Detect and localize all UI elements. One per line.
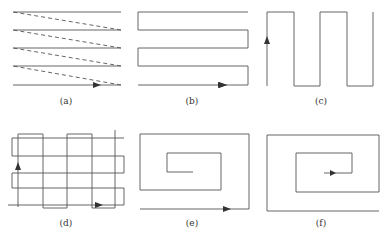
panel-b-label: (b) [172,96,212,106]
panel-f-label: (f) [301,218,341,228]
panel-b-serpentine-horizontal-diagram [138,12,248,88]
panel-d-label: (d) [46,218,86,228]
panel-a-zigzag-diagram [13,12,121,85]
panel-d-crosshatch-diagram [8,130,124,208]
panel-c-serpentine-vertical-diagram [264,12,373,86]
panel-a-label: (a) [46,96,86,106]
panel-e-label: (e) [172,218,212,228]
panel-f-spiral-outward-diagram [267,135,379,211]
panel-e-spiral-inward-diagram [140,134,249,212]
panel-c-label: (c) [301,96,341,106]
figure-canvas [0,0,388,242]
